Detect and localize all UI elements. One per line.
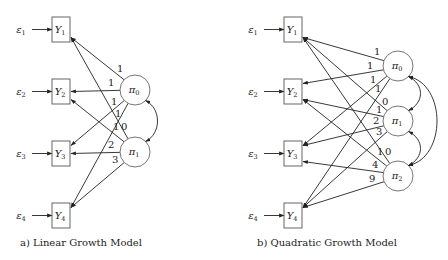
observed-variable-label-subscript: 4 [293, 215, 297, 223]
latent-factor-label-subscript: 0 [135, 89, 139, 97]
latent-factor-label-subscript: 1 [135, 151, 139, 159]
error-term-label-subscript: 1 [22, 29, 26, 37]
loading-label: 1 [374, 46, 380, 57]
error-term-label-subscript: 2 [22, 91, 26, 99]
observed-variable-label-subscript: 2 [61, 91, 65, 99]
loading-label: 1 [376, 104, 382, 115]
growth-model-diagrams: ε1ε2ε3ε411110123Y1Y2Y3Y4π0π1a) Linear Gr… [0, 0, 448, 260]
loading-label: 9 [369, 173, 375, 184]
loading-label: 1 [367, 60, 373, 71]
error-term-label-subscript: 4 [22, 215, 26, 223]
observed-variable-label-subscript: 3 [61, 153, 65, 161]
loading-label: 0 [382, 96, 388, 107]
error-term-label: ε3 [16, 148, 26, 161]
error-term-label: ε2 [248, 86, 258, 99]
loading-label: 3 [376, 126, 382, 137]
loading-label: 0 [121, 121, 127, 132]
latent-factor-label-subscript: 2 [398, 175, 402, 183]
loading-path [303, 182, 384, 208]
loading-label: 2 [373, 115, 379, 126]
error-term-label: ε3 [248, 148, 258, 161]
covariance-arrow [409, 132, 421, 166]
loading-label: 2 [108, 139, 114, 150]
error-term-label: ε1 [248, 24, 258, 37]
panel-caption: b) Quadratic Growth Model [257, 237, 397, 248]
observed-variable-label-subscript: 4 [61, 215, 65, 223]
observed-variable-label-subscript: 1 [293, 29, 297, 37]
loading-label: 1 [111, 96, 117, 107]
loading-label: 3 [112, 154, 118, 165]
loading-path [303, 79, 390, 208]
loading-path [303, 100, 387, 167]
error-term-label: ε2 [16, 86, 26, 99]
loading-path [71, 162, 124, 207]
loading-label: 1 [377, 146, 383, 157]
loading-label: 4 [372, 159, 378, 170]
covariance-arrow [146, 101, 158, 142]
latent-factor-label-subscript: 1 [398, 120, 402, 128]
covariance-arrow [409, 77, 421, 111]
error-term-label: ε4 [16, 210, 26, 223]
loading-path [71, 38, 128, 139]
observed-variable-label-subscript: 2 [293, 91, 297, 99]
loading-path [303, 38, 384, 61]
quadratic-growth-model-panel: ε1ε2ε3ε4111101230149Y1Y2Y3Y4π0π1π2b) Qua… [248, 17, 437, 248]
loading-path [71, 90, 120, 91]
error-term-label-subscript: 4 [254, 215, 258, 223]
observed-variable-label-subscript: 3 [293, 153, 297, 161]
loading-label: 1 [375, 83, 381, 94]
latent-factor-label-subscript: 0 [398, 65, 402, 73]
linear-growth-model-panel: ε1ε2ε3ε411110123Y1Y2Y3Y4π0π1a) Linear Gr… [16, 17, 157, 248]
panel-caption: a) Linear Growth Model [20, 237, 142, 248]
error-term-label-subscript: 3 [22, 153, 26, 161]
loading-label: 1 [108, 77, 114, 88]
error-term-label: ε1 [16, 24, 26, 37]
loading-label: 1 [117, 63, 123, 74]
loading-path [303, 100, 384, 117]
observed-variable-label-subscript: 1 [61, 29, 65, 37]
error-term-label-subscript: 1 [254, 29, 258, 37]
error-term-label-subscript: 3 [254, 153, 258, 161]
error-term-label: ε4 [248, 210, 258, 223]
loading-label: 1 [113, 121, 119, 132]
error-term-label-subscript: 2 [254, 91, 258, 99]
loading-label: 0 [385, 146, 391, 157]
